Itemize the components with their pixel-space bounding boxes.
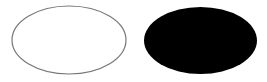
diagram-svg (0, 0, 267, 82)
filled-ellipse (144, 7, 257, 74)
outlined-ellipse (12, 6, 126, 74)
diagram-canvas (0, 0, 267, 82)
